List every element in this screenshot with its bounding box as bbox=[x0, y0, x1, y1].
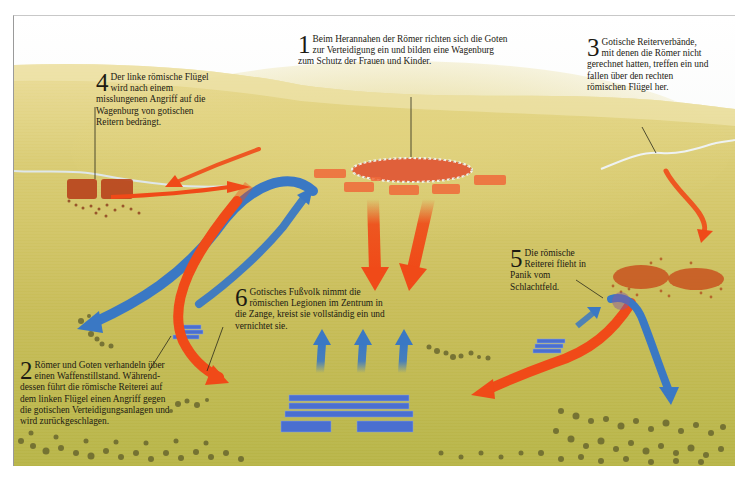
annotation-text: Römer und Goten verhandeln über einen Wa… bbox=[20, 360, 170, 426]
annotation-text: Gotische Reiterverbände, mit denen die R… bbox=[587, 37, 708, 92]
annotation-number: 5 bbox=[510, 248, 523, 269]
annotation-text: Gotisches Fußvolk nimmt die römischen Le… bbox=[235, 287, 385, 331]
annotation-number: 4 bbox=[96, 72, 109, 93]
annotation-2-waffenstillstand: 2 Römer und Goten verhandeln über einen … bbox=[20, 360, 170, 427]
annotation-number: 3 bbox=[587, 37, 600, 58]
annotation-4-linker-fluegel: 4 Der linke römische Flügel wird nach ei… bbox=[96, 72, 222, 128]
annotation-text: Beim Herannahen der Römer richten sich d… bbox=[298, 34, 508, 66]
annotation-number: 1 bbox=[298, 34, 311, 55]
annotation-3-gotische-reiter: 3 Gotische Reiterverbände, mit denen die… bbox=[587, 37, 709, 93]
annotation-number: 6 bbox=[235, 287, 248, 308]
annotation-number: 2 bbox=[20, 360, 33, 381]
annotation-5-reiterei-flieht: 5 Die römische Reiterei flieht in Panik … bbox=[510, 248, 592, 293]
annotation-6-fussvolk: 6 Gotisches Fußvolk nimmt die römischen … bbox=[235, 287, 385, 332]
annotation-1-wagenburg: 1 Beim Herannahen der Römer richten sich… bbox=[298, 34, 508, 68]
annotation-text: Der linke römische Flügel wird nach eine… bbox=[96, 72, 209, 127]
roman-unit-right bbox=[533, 339, 565, 353]
